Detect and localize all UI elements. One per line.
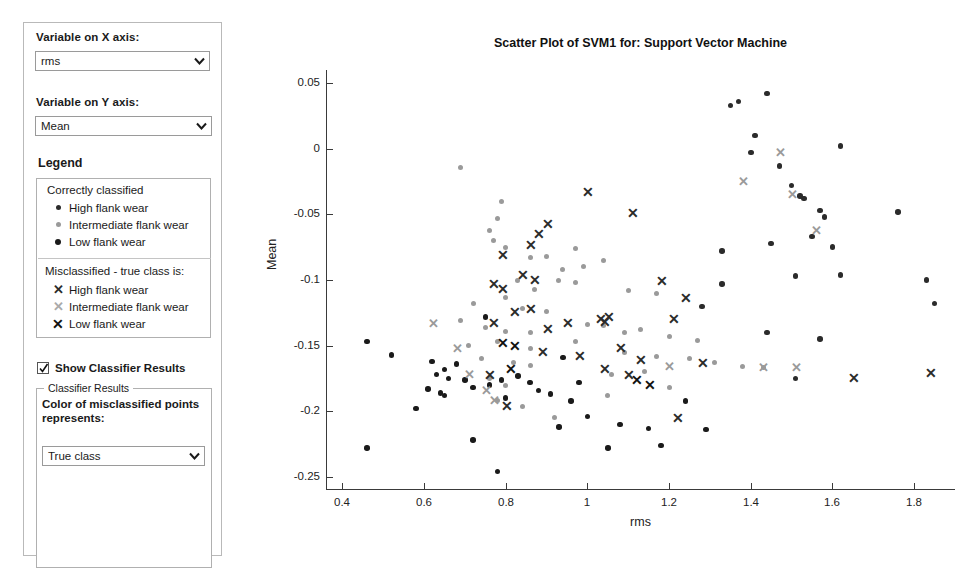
- data-point-cross: ✕: [464, 368, 475, 381]
- data-point-cross: ✕: [505, 362, 517, 376]
- x-axis-tick-label: 0.4: [322, 496, 362, 508]
- x-axis-tick: [832, 483, 833, 489]
- x-axis-tick: [669, 483, 670, 489]
- data-point-cross: ✕: [428, 317, 439, 330]
- data-point-dot: [719, 281, 725, 287]
- data-point-dot: [425, 386, 431, 392]
- x-axis-line: [326, 489, 955, 490]
- data-point-dot: [924, 277, 930, 283]
- data-point-dot: [556, 424, 562, 430]
- data-point-dot: [458, 165, 463, 170]
- data-point-cross: ✕: [537, 345, 549, 359]
- data-point-cross: ✕: [758, 361, 769, 374]
- data-point-dot: [654, 354, 659, 359]
- y-axis-tick: [327, 346, 333, 347]
- data-point-cross: ✕: [738, 175, 749, 188]
- data-point-dot: [622, 330, 627, 335]
- data-point-cross: ✕: [509, 339, 521, 353]
- data-point-cross: ✕: [452, 342, 463, 355]
- y-axis-tick: [327, 477, 333, 478]
- data-point-dot: [429, 359, 435, 365]
- data-point-dot: [617, 422, 623, 428]
- data-point-dot: [544, 254, 549, 259]
- data-point-cross: ✕: [644, 378, 656, 392]
- y-axis-tick: [327, 280, 333, 281]
- data-point-dot: [573, 280, 578, 285]
- data-point-cross: ✕: [497, 282, 509, 296]
- data-point-cross: ✕: [615, 341, 627, 355]
- data-point-cross: ✕: [488, 316, 500, 330]
- data-point-dot: [495, 469, 501, 475]
- data-point-cross: ✕: [787, 188, 798, 201]
- data-point-dot: [638, 327, 643, 332]
- data-point-cross: ✕: [668, 312, 680, 326]
- data-point-dot: [487, 228, 492, 233]
- data-point-dot: [560, 355, 566, 361]
- y-axis-tick-label: -0.2: [274, 404, 320, 416]
- y-axis-tick: [327, 149, 333, 150]
- data-point-cross: ✕: [509, 305, 521, 319]
- data-point-dot: [654, 291, 659, 296]
- data-point-dot: [605, 445, 611, 451]
- data-point-cross: ✕: [811, 224, 822, 237]
- y-axis-tick: [327, 411, 333, 412]
- y-axis-label: Mean: [265, 239, 279, 270]
- data-point-dot: [712, 360, 717, 365]
- x-axis-tick-label: 1.2: [649, 496, 689, 508]
- y-axis-tick-label: -0.15: [274, 339, 320, 351]
- data-point-dot: [470, 437, 476, 443]
- x-axis-tick: [587, 483, 588, 489]
- x-axis-label: rms: [326, 515, 955, 529]
- x-axis-tick-label: 1.4: [731, 496, 771, 508]
- data-point-cross: ✕: [484, 368, 496, 382]
- data-point-dot: [389, 352, 395, 358]
- data-point-dot: [895, 209, 901, 215]
- y-axis-tick-label: -0.05: [274, 207, 320, 219]
- data-point-dot: [736, 99, 742, 105]
- data-point-dot: [695, 338, 700, 343]
- data-point-dot: [458, 318, 463, 323]
- data-point-cross: ✕: [574, 349, 586, 363]
- data-point-dot: [528, 346, 533, 351]
- data-point-dot: [556, 278, 561, 283]
- data-point-cross: ✕: [680, 291, 692, 305]
- data-point-dot: [573, 339, 578, 344]
- data-point-dot: [699, 304, 705, 310]
- data-point-cross: ✕: [775, 146, 786, 159]
- data-point-dot: [793, 376, 799, 382]
- data-point-dot: [479, 356, 484, 361]
- data-point-cross: ✕: [525, 238, 537, 252]
- x-axis-tick-label: 0.6: [404, 496, 444, 508]
- data-point-dot: [667, 385, 672, 390]
- data-point-dot: [838, 143, 844, 149]
- data-point-dot: [548, 391, 554, 397]
- data-point-dot: [495, 216, 500, 221]
- data-point-dot: [585, 414, 591, 420]
- data-point-cross: ✕: [656, 274, 668, 288]
- data-point-dot: [768, 241, 774, 247]
- data-point-dot: [793, 273, 799, 279]
- data-point-dot: [446, 376, 452, 382]
- x-axis-tick: [914, 483, 915, 489]
- data-point-dot: [932, 301, 938, 307]
- data-point-dot: [527, 380, 533, 386]
- data-point-dot: [601, 258, 606, 263]
- data-point-cross: ✕: [529, 273, 541, 287]
- data-point-dot: [801, 196, 807, 202]
- data-point-dot: [777, 163, 783, 169]
- chart-title: Scatter Plot of SVM1 for: Support Vector…: [326, 36, 955, 50]
- data-point-cross: ✕: [627, 206, 639, 220]
- data-point-cross: ✕: [582, 185, 594, 199]
- data-point-dot: [466, 343, 471, 348]
- data-point-dot: [471, 301, 476, 306]
- data-point-dot: [528, 255, 533, 260]
- data-point-dot: [503, 329, 508, 334]
- data-point-cross: ✕: [599, 315, 611, 329]
- data-point-cross: ✕: [489, 394, 500, 407]
- data-point-cross: ✕: [848, 371, 860, 385]
- data-point-cross: ✕: [501, 399, 513, 413]
- plot-area: ✕✕✕✕✕✕✕✕✕✕✕✕✕✕✕✕✕✕✕✕✕✕✕✕✕✕✕✕✕✕✕✕✕✕✕✕✕✕✕✕…: [326, 70, 955, 490]
- data-point-dot: [585, 322, 590, 327]
- data-point-dot: [568, 398, 574, 404]
- data-point-cross: ✕: [791, 361, 802, 374]
